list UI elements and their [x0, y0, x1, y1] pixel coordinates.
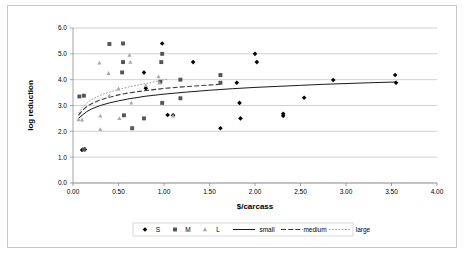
data-point-square: [173, 228, 177, 232]
y-tick-label: 6.0: [58, 24, 67, 31]
y-tick-label: 5.0: [58, 50, 67, 57]
data-point-square: [77, 95, 81, 99]
data-point-square: [178, 78, 182, 82]
data-point-diamond: [237, 101, 242, 106]
y-tick-label: 1.0: [58, 154, 67, 161]
series-M: [77, 42, 222, 152]
data-point-square: [160, 52, 164, 56]
data-point-diamond: [142, 70, 147, 75]
legend-label-large: large: [356, 226, 371, 234]
y-tick-label: 2.0: [58, 128, 67, 135]
y-axis-title: log reduction: [26, 80, 35, 131]
data-point-diamond: [394, 80, 399, 85]
x-tick-label: 3.00: [340, 188, 353, 195]
data-point-diamond: [235, 80, 240, 85]
data-point-triangle: [98, 114, 102, 118]
data-point-diamond: [393, 73, 398, 78]
data-point-triangle: [107, 94, 111, 98]
data-point-square: [178, 96, 182, 100]
data-point-square: [142, 116, 146, 120]
data-point-square: [122, 113, 126, 117]
data-point-triangle: [129, 101, 133, 105]
x-tick-label: 2.00: [249, 188, 262, 195]
legend-label-small: small: [259, 226, 275, 233]
data-point-square: [121, 42, 125, 46]
curve-medium: [78, 84, 220, 115]
x-tick-label: 4.00: [431, 188, 444, 195]
data-point-triangle: [98, 127, 102, 131]
data-point-square: [160, 101, 164, 105]
x-tick-label: 1.50: [203, 188, 216, 195]
series-L: [76, 53, 175, 131]
data-point-triangle: [76, 117, 80, 121]
data-point-square: [159, 60, 163, 64]
chart-plot: 0.01.02.03.04.05.06.00.000.501.001.502.0…: [0, 0, 466, 256]
data-point-square: [121, 60, 125, 64]
data-point-diamond: [331, 78, 336, 83]
curve-large: [78, 79, 168, 113]
data-point-triangle: [97, 61, 101, 65]
data-point-diamond: [255, 60, 260, 65]
data-point-diamond: [160, 41, 165, 46]
data-point-square: [107, 42, 111, 46]
legend-label-S: S: [156, 226, 161, 233]
data-point-square: [218, 81, 222, 85]
x-tick-label: 0.50: [112, 188, 125, 195]
y-tick-label: 3.0: [58, 102, 67, 109]
data-point-diamond: [302, 95, 307, 100]
legend-label-M: M: [185, 226, 190, 233]
data-point-diamond: [191, 60, 196, 65]
x-tick-label: 2.50: [294, 188, 307, 195]
data-point-square: [82, 147, 86, 151]
y-tick-label: 4.0: [58, 76, 67, 83]
data-point-square: [218, 73, 222, 77]
data-point-square: [120, 70, 124, 74]
data-point-triangle: [128, 60, 132, 64]
data-point-diamond: [165, 113, 170, 118]
legend-label-medium: medium: [303, 226, 326, 233]
data-point-diamond: [238, 116, 243, 121]
data-point-square: [82, 94, 86, 98]
data-point-diamond: [218, 126, 223, 131]
legend-label-L: L: [216, 226, 220, 233]
data-point-triangle: [156, 74, 160, 78]
data-point-diamond: [253, 52, 258, 57]
chart-container: 0.01.02.03.04.05.06.00.000.501.001.502.0…: [0, 0, 466, 256]
x-tick-label: 0.00: [67, 188, 80, 195]
y-tick-label: 0.0: [58, 179, 67, 186]
x-tick-label: 3.50: [385, 188, 398, 195]
series-S: [80, 41, 399, 152]
data-point-triangle: [116, 87, 120, 91]
data-point-triangle: [80, 118, 84, 122]
data-point-square: [130, 126, 134, 130]
x-axis-title: $/carcass: [237, 202, 274, 211]
data-point-triangle: [117, 116, 121, 120]
x-tick-label: 1.00: [158, 188, 171, 195]
data-point-triangle: [106, 71, 110, 75]
